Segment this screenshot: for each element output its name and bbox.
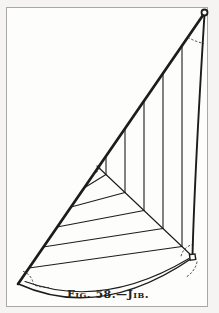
seam-lower-5 (29, 247, 182, 269)
dotted-head-angle-arc (188, 38, 204, 44)
seam-lower-3 (57, 211, 144, 228)
figure-caption: Fig. 58.—Jib. (7, 288, 209, 301)
jib-diagram (0, 0, 219, 313)
dotted-clew-outer-dots (186, 262, 198, 278)
clew-cringle-marker (189, 254, 195, 260)
edge-luff (18, 13, 205, 284)
seam-lower-4 (43, 229, 163, 248)
edge-leech (193, 14, 205, 256)
head-cringle-marker (202, 10, 208, 16)
scanned-page: Fig. 58.—Jib. (0, 0, 219, 313)
